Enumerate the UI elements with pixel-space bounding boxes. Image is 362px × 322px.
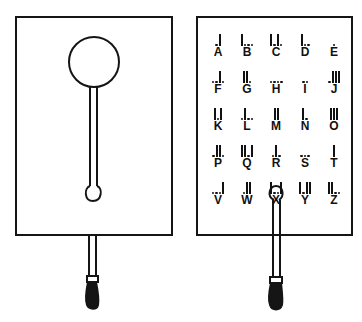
code-symbol xyxy=(299,176,311,194)
code-symbol xyxy=(333,139,335,157)
code-symbol xyxy=(302,65,308,83)
code-letter: C xyxy=(272,46,281,59)
code-letter: E xyxy=(330,46,338,59)
code-letter: T xyxy=(330,157,337,170)
code-symbol xyxy=(333,28,336,46)
code-symbol xyxy=(243,65,252,83)
code-letter: M xyxy=(271,120,281,133)
code-alphabet-grid: ABCDEFGHIJKLMNOPQRSTVWXYZ xyxy=(205,28,347,213)
code-cell-p: P xyxy=(205,139,231,176)
code-letter: S xyxy=(301,157,309,170)
code-symbol xyxy=(212,65,225,83)
code-symbol xyxy=(302,102,308,120)
code-symbol xyxy=(241,102,254,120)
code-symbol xyxy=(212,139,224,157)
code-cell-e: E xyxy=(321,28,347,65)
code-row: FGHIJ xyxy=(205,65,347,102)
code-cell-n: N xyxy=(292,102,318,139)
code-row: KLMNO xyxy=(205,102,347,139)
code-letter: J xyxy=(331,83,338,96)
code-letter: Z xyxy=(330,194,337,207)
code-cell-g: G xyxy=(234,65,260,102)
code-cell-j: J xyxy=(321,65,347,102)
code-letter: I xyxy=(303,83,306,96)
code-row: ABCDE xyxy=(205,28,347,65)
code-letter: A xyxy=(214,46,223,59)
code-cell-q: Q xyxy=(234,139,260,176)
code-symbol xyxy=(300,139,310,157)
code-cell-t: T xyxy=(321,139,347,176)
code-letter: O xyxy=(329,120,338,133)
code-cell-b: B xyxy=(234,28,260,65)
code-letter: F xyxy=(214,83,221,96)
code-cell-k: K xyxy=(205,102,231,139)
code-symbol xyxy=(270,65,283,83)
code-cell-f: F xyxy=(205,65,231,102)
code-cell-x: X xyxy=(263,176,289,213)
code-cell-i: I xyxy=(292,65,318,102)
code-symbol xyxy=(330,102,338,120)
code-letter: N xyxy=(301,120,310,133)
code-row: VWXYZ xyxy=(205,176,347,213)
code-symbol xyxy=(212,176,225,194)
code-letter: B xyxy=(243,46,252,59)
code-letter: D xyxy=(301,46,310,59)
code-symbol xyxy=(328,65,340,83)
code-cell-r: R xyxy=(263,139,289,176)
code-letter: H xyxy=(272,83,281,96)
code-cell-v: V xyxy=(205,176,231,213)
code-row: PQRST xyxy=(205,139,347,176)
code-letter: Q xyxy=(242,157,251,170)
code-letter: K xyxy=(214,120,223,133)
code-cell-c: C xyxy=(263,28,289,65)
code-letter: Y xyxy=(301,194,309,207)
code-letter: W xyxy=(241,194,252,207)
code-symbol xyxy=(274,102,279,120)
code-cell-y: Y xyxy=(292,176,318,213)
code-symbol xyxy=(272,139,281,157)
code-letter: P xyxy=(214,157,222,170)
code-symbol xyxy=(214,102,223,120)
code-letter: G xyxy=(242,83,251,96)
code-letter: V xyxy=(214,194,222,207)
code-cell-w: W xyxy=(234,176,260,213)
code-symbol xyxy=(270,176,282,194)
code-letter: X xyxy=(272,194,280,207)
code-symbol xyxy=(241,28,254,46)
code-letter: R xyxy=(272,157,281,170)
code-cell-z: Z xyxy=(321,176,347,213)
code-symbol xyxy=(270,28,282,46)
code-symbol xyxy=(215,28,221,46)
code-symbol xyxy=(243,176,252,194)
code-cell-h: H xyxy=(263,65,289,102)
left-disk-slot xyxy=(69,37,119,201)
code-symbol xyxy=(301,28,310,46)
code-cell-s: S xyxy=(292,139,318,176)
code-symbol xyxy=(241,139,253,157)
code-cell-a: A xyxy=(205,28,231,65)
code-cell-m: M xyxy=(263,102,289,139)
code-letter: L xyxy=(243,120,250,133)
code-cell-d: D xyxy=(292,28,318,65)
code-symbol xyxy=(328,176,340,194)
left-handle xyxy=(86,236,98,309)
code-cell-o: O xyxy=(321,102,347,139)
code-cell-l: L xyxy=(234,102,260,139)
